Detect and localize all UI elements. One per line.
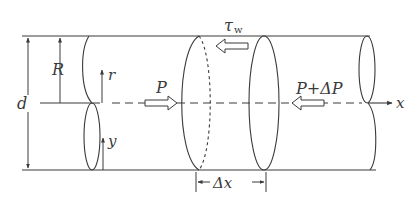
pressure-left-label: P <box>155 78 167 97</box>
wall-shear-label: τ <box>224 16 234 35</box>
y-axis-label: y <box>107 132 117 150</box>
pipe-flow-diagram: x d R r y P P+ΔP τ w Δx <box>0 0 413 198</box>
radius-label: R <box>51 60 64 79</box>
element-length-label: Δx <box>212 174 233 192</box>
pressure-right-label: P+ΔP <box>295 79 343 98</box>
wall-shear-subscript: w <box>234 24 243 35</box>
pressure-left-arrow-icon <box>145 96 177 110</box>
pressure-right-arrow-icon <box>292 96 324 110</box>
wall-shear-arrow-icon <box>216 39 248 53</box>
diameter-label: d <box>17 94 27 113</box>
r-axis-label: r <box>108 66 116 84</box>
x-axis-label: x <box>396 94 405 112</box>
